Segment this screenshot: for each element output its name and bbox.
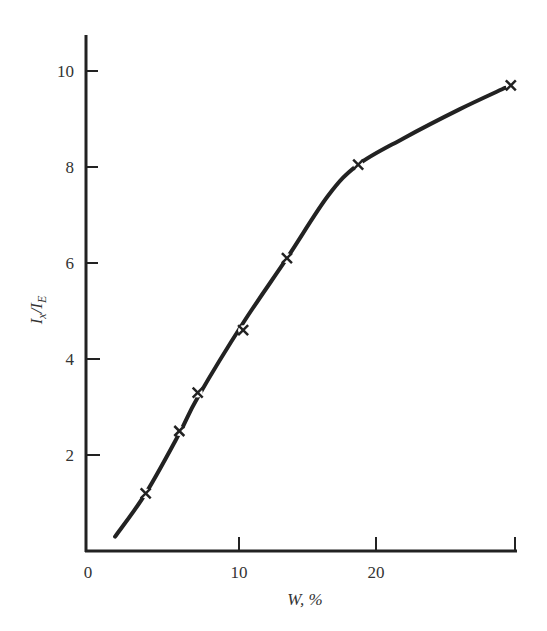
y-axis-title: Ix/IE: [27, 295, 49, 325]
y-ticks: [86, 71, 100, 455]
y-tick-label-4: 4: [66, 350, 75, 369]
y-tick-label-10: 10: [57, 62, 74, 81]
svg-text:Ix/IE: Ix/IE: [27, 295, 49, 325]
x-tick-label-0: 0: [84, 563, 93, 582]
fitted-curve: [115, 88, 505, 537]
data-markers: [141, 80, 516, 498]
chart: 10 8 6 4 2 0 10 20 W, % Ix/IE: [0, 0, 547, 631]
x-tick-label-20: 20: [368, 563, 385, 582]
y-tick-label-8: 8: [66, 158, 75, 177]
x-axis-title: W, %: [287, 590, 322, 609]
y-tick-label-2: 2: [66, 446, 75, 465]
x-ticks: [239, 537, 515, 551]
y-tick-label-6: 6: [66, 254, 75, 273]
x-tick-label-10: 10: [231, 563, 248, 582]
